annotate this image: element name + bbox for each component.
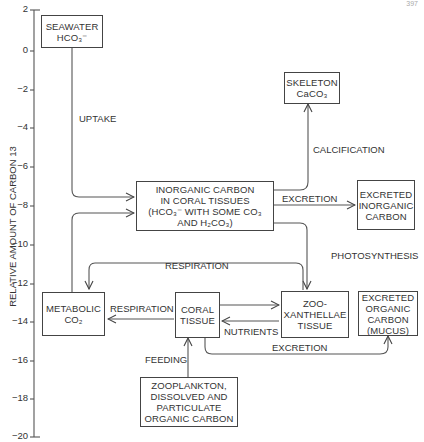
label-uptake: UPTAKE (79, 113, 116, 124)
node-excreted-inorganic-carbon: EXCRETED INORGANIC CARBON (357, 180, 415, 230)
tick-m16: −16 (4, 354, 28, 365)
tick-m10: −10 (4, 238, 28, 249)
tick-m8: −8 (4, 199, 28, 210)
tick-m14: −14 (4, 315, 28, 326)
node-zooplankton: ZOOPLANKTON, DISSOLVED AND PARTICULATE O… (140, 377, 238, 427)
label-feeding: FEEDING (145, 354, 187, 365)
label-photosynthesis: PHOTOSYNTHESIS (331, 250, 418, 261)
node-metabolic-co2: METABOLIC CO₂ (42, 292, 105, 336)
label-respiration-left: RESPIRATION (110, 303, 174, 314)
tick-m6: −6 (4, 160, 28, 171)
node-excreted-organic-carbon: EXCRETED ORGANIC CARBON (MUCUS) (358, 291, 418, 336)
label-calcification: CALCIFICATION (313, 144, 385, 155)
tick-m12: −12 (4, 277, 28, 288)
node-coral-tissue: CORAL TISSUE (175, 292, 220, 338)
y-axis-label: RELATIVE AMOUNT OF CARBON 13 (7, 127, 18, 327)
tick-m4: −4 (4, 121, 28, 132)
node-zooxanthellae-tissue: ZOO- XANTHELLAE TISSUE (281, 291, 349, 338)
label-respiration-top: RESPIRATION (165, 260, 229, 271)
label-excretion-inorganic: EXCRETION (282, 193, 337, 204)
tick-m18: −18 (4, 392, 28, 403)
node-seawater: SEAWATER HCO₃⁻ (41, 15, 103, 48)
tick-0: 0 (4, 44, 28, 55)
node-inorganic-carbon: INORGANIC CARBON IN CORAL TISSUES (HCO₃⁻… (136, 181, 274, 231)
tick-2: 2 (4, 3, 28, 14)
label-nutrients: NUTRIENTS (224, 326, 278, 337)
page-number: 397 (406, 0, 418, 7)
node-skeleton: SKELETON CaCO₃ (284, 72, 340, 104)
tick-m20: −20 (4, 430, 28, 441)
tick-m2: −2 (4, 83, 28, 94)
label-excretion-organic: EXCRETION (272, 342, 327, 353)
